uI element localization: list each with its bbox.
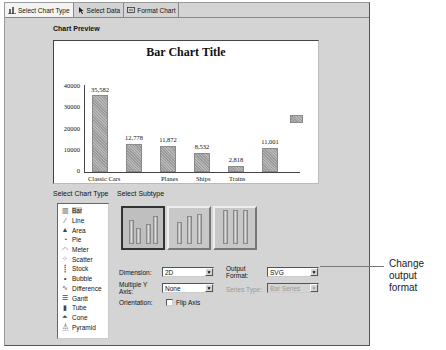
flip-axis-label[interactable]: Flip Axis [176, 299, 200, 306]
area-icon: ▲ [61, 226, 69, 234]
format-icon [127, 6, 135, 14]
output-format-label: Output Format: [226, 265, 248, 279]
subtype-stacked[interactable] [167, 206, 211, 250]
orientation-label: Orientation: [119, 299, 153, 306]
multiple-y-axis-label-line: Multiple Y [119, 281, 147, 288]
bar-value-label: 35,582 [85, 86, 115, 93]
flip-axis-checkbox[interactable] [166, 299, 173, 306]
pyramid-icon: ⏅ [61, 323, 69, 331]
cone-icon: ⏶ [61, 313, 69, 321]
chart-type-label: Area [72, 227, 86, 234]
tab-format-chart[interactable]: Format Chart [124, 3, 179, 17]
chart-type-meter[interactable]: ◠Meter [58, 245, 108, 255]
y-tick: 0 [58, 167, 80, 174]
chart-type-pie[interactable]: ◔Pie [58, 235, 108, 245]
chart-type-label: Line [72, 217, 84, 224]
line-icon: ⁄ [61, 217, 69, 225]
bar-trains [228, 166, 244, 172]
chart-type-label: Cone [72, 314, 88, 321]
x-label: Trains [229, 175, 245, 182]
chart-type-area[interactable]: ▲Area [58, 225, 108, 235]
tab-label: Format Chart [137, 7, 175, 14]
bar [126, 144, 142, 172]
output-format-label-line: Output [226, 265, 248, 272]
chart-type-label: Bubble [72, 275, 92, 282]
bar-value-label: 11,001 [255, 138, 285, 145]
chart-preview-label: Chart Preview [53, 25, 100, 32]
dimension-select[interactable]: 2D ▼ [162, 267, 214, 277]
bar-ships [194, 153, 210, 172]
chart-type-label: Scatter [72, 256, 93, 263]
bar-icon: ▥ [61, 207, 69, 215]
bar [262, 148, 278, 172]
chart-type-pyramid[interactable]: ⏅Pyramid [58, 322, 108, 332]
multiple-y-axis-label-line: Axis: [119, 288, 147, 295]
dimension-value: 2D [165, 269, 173, 276]
tab-select-chart-type[interactable]: Select Chart Type [5, 3, 74, 17]
subtype-bar-graphic [187, 216, 192, 244]
meter-icon: ◠ [61, 246, 69, 254]
stock-icon: ┋ [61, 265, 69, 273]
multiple-y-axis-select[interactable]: None ▼ [162, 283, 214, 293]
series-type-label: Series Type: [226, 286, 262, 293]
chart-type-label: Stock [72, 265, 88, 272]
subtype-bar-graphic [136, 228, 141, 244]
cursor-icon [77, 6, 85, 14]
callout-line [320, 266, 384, 267]
tab-label: Select Chart Type [18, 7, 70, 14]
output-format-select[interactable]: SVG ▼ [267, 267, 319, 277]
chevron-down-icon[interactable]: ▼ [205, 284, 213, 292]
tab-bar: Select Chart Type Select Data Format Cha… [5, 3, 179, 17]
tube-icon: ▮ [61, 304, 69, 312]
chart-type-bubble[interactable]: ∘Bubble [58, 274, 108, 284]
chart-preview: Bar Chart Title 40000 30000 20000 10000 … [53, 40, 319, 184]
x-label: Planes [161, 175, 178, 182]
chart-type-tube[interactable]: ▮Tube [58, 303, 108, 313]
multiple-y-axis-label: Multiple Y Axis: [119, 281, 147, 295]
select-chart-type-label: Select Chart Type [53, 190, 109, 197]
chevron-down-icon[interactable]: ▼ [310, 268, 318, 276]
chart-type-label: Pyramid [72, 324, 96, 331]
output-format-value: SVG [270, 269, 284, 276]
dimension-label: Dimension: [119, 269, 152, 276]
subtype-bar-graphic [129, 220, 134, 244]
y-tick: 20000 [58, 125, 80, 132]
gantt-icon: ☰ [61, 294, 69, 302]
chart-type-label: Bar [72, 207, 82, 214]
x-label: Classic Cars [88, 175, 120, 182]
chart-type-cone[interactable]: ⏶Cone [58, 313, 108, 323]
chart-type-gantt[interactable]: ☰Gantt [58, 293, 108, 303]
subtype-side-by-side[interactable] [121, 206, 165, 250]
chart-type-label: Gantt [72, 295, 88, 302]
tab-label: Select Data [87, 7, 121, 14]
subtype-percent-stacked[interactable] [213, 206, 257, 250]
chart-type-stock[interactable]: ┋Stock [58, 264, 108, 274]
chart-type-bar[interactable]: ▥Bar [58, 206, 108, 216]
scatter-icon: ⁘ [61, 255, 69, 263]
chevron-down-icon: ▼ [310, 284, 318, 292]
pie-icon: ◔ [61, 236, 69, 244]
series-type-value: Bar Series [270, 285, 300, 292]
series-type-select: Bar Series ▼ [267, 283, 319, 293]
bar-value-label: 12,778 [119, 134, 149, 141]
subtype-bar-graphic [233, 210, 238, 244]
subtype-bar-graphic [177, 222, 182, 244]
chevron-down-icon[interactable]: ▼ [205, 268, 213, 276]
subtype-bar-graphic [153, 216, 158, 244]
chart-type-difference[interactable]: ∿Difference [58, 284, 108, 294]
chart-title: Bar Chart Title [54, 45, 318, 60]
subtype-bar-graphic [146, 224, 151, 244]
chart-type-line[interactable]: ⁄Line [58, 216, 108, 226]
bar-planes [160, 146, 176, 172]
chart-type-label: Meter [72, 246, 89, 253]
y-tick: 30000 [58, 103, 80, 110]
chart-type-scatter[interactable]: ⁘Scatter [58, 254, 108, 264]
callout-line-2: output [389, 270, 424, 282]
bar-classic-cars [92, 95, 108, 172]
bar-value-label: 11,872 [153, 136, 183, 143]
y-axis [84, 85, 85, 172]
tab-select-data[interactable]: Select Data [74, 3, 125, 17]
subtype-bar-graphic [223, 210, 228, 244]
bar-value-label: 2,818 [221, 156, 251, 163]
chart-type-list[interactable]: ▥Bar ⁄Line ▲Area ◔Pie ◠Meter ⁘Scatter ┋S… [57, 203, 109, 339]
